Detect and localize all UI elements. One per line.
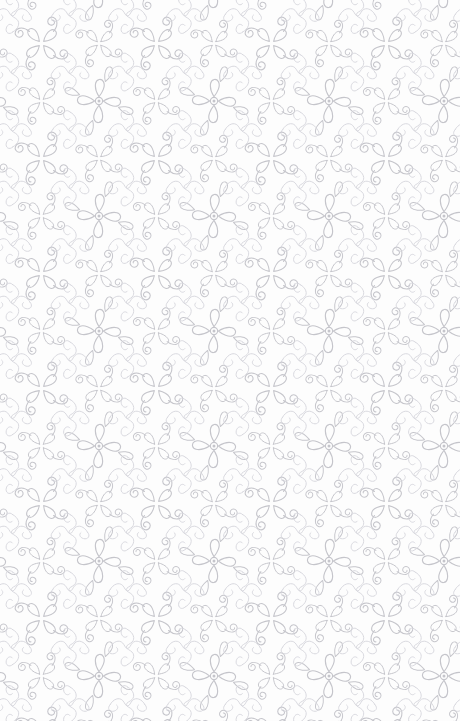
ornamental-pattern-surface	[0, 0, 460, 721]
pattern-tile-fill	[0, 0, 460, 721]
pattern-canvas	[0, 0, 460, 721]
